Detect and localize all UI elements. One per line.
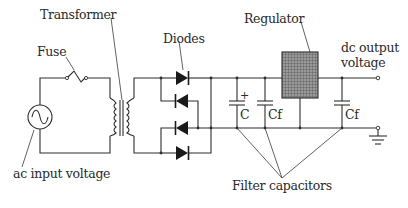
bridge-rectifier bbox=[160, 77, 213, 155]
regulator-icon bbox=[282, 52, 318, 128]
ground-icon bbox=[369, 126, 387, 144]
regulator-label: Regulator bbox=[244, 13, 304, 26]
diode-4-icon bbox=[176, 146, 189, 160]
ground-rail bbox=[198, 127, 376, 130]
secondary-wires bbox=[134, 78, 161, 153]
dc-output-terminal-icon bbox=[376, 76, 380, 80]
ac-source-icon bbox=[28, 105, 52, 129]
transformer-icon bbox=[110, 98, 134, 136]
diode-3-icon bbox=[176, 121, 189, 135]
fuse-label: Fuse bbox=[37, 46, 66, 59]
diode-1-icon bbox=[176, 71, 189, 85]
dc-output-label-line2: voltage bbox=[341, 57, 385, 70]
ac-input-label: ac input voltage bbox=[13, 168, 110, 181]
fuse-icon bbox=[65, 71, 87, 82]
diodes-label: Diodes bbox=[163, 33, 205, 46]
polarity-plus-label: + bbox=[240, 90, 249, 101]
capacitor-cf2-label: Cf bbox=[345, 109, 359, 122]
filter-capacitors-label: Filter capacitors bbox=[232, 180, 332, 193]
capacitor-c-label: C bbox=[240, 109, 249, 122]
ac-input-loop bbox=[40, 78, 110, 153]
dc-output-label-line1: dc output bbox=[341, 42, 399, 55]
transformer-label: Transformer bbox=[40, 9, 116, 22]
power-supply-diagram: Transformer Fuse Diodes Regulator dc out… bbox=[0, 0, 408, 208]
diode-2-icon bbox=[176, 94, 189, 108]
capacitor-cf1-label: Cf bbox=[268, 109, 282, 122]
